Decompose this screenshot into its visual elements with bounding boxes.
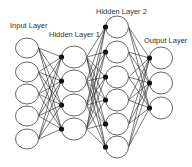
label-hidden-layer-2: Hidden Layer 2 [96, 7, 147, 16]
input-neuron [16, 106, 39, 126]
layer-labels: Input Layer Hidden Layer 1 Hidden Layer … [10, 7, 188, 45]
hidden2-neuron [106, 136, 129, 158]
output-neuron [150, 97, 173, 119]
network-svg: Input Layer Hidden Layer 1 Hidden Layer … [0, 0, 192, 167]
output-neuron [150, 47, 173, 69]
junction-dot-icon [147, 80, 152, 85]
connection-edge [129, 108, 150, 124]
junction-dot-icon [103, 24, 108, 29]
connection-edge [129, 58, 150, 147]
label-input-layer: Input Layer [10, 21, 48, 30]
output-neuron [150, 72, 173, 94]
hidden2-neuron [106, 66, 129, 88]
hidden1-neuron [62, 46, 87, 68]
junction-dot-icon [103, 144, 108, 149]
hidden2-neuron [106, 113, 129, 135]
hidden2-neuron [106, 16, 129, 38]
hidden2-neuron [106, 89, 129, 111]
input-neuron [16, 84, 39, 104]
junction-dot-icon [59, 78, 64, 83]
hidden1-neuron [62, 70, 87, 92]
junction-dot-icon [147, 55, 152, 60]
junction-dot-icon [103, 49, 108, 54]
junction-dot-icon [103, 97, 108, 102]
connection-edge [39, 57, 62, 139]
label-output-layer: Output Layer [144, 36, 188, 45]
connections [39, 27, 150, 147]
label-hidden-layer-1: Hidden Layer 1 [49, 30, 100, 39]
junction-dot-icon [103, 74, 108, 79]
junction-dot-icon [59, 54, 64, 59]
connection-edge [39, 81, 62, 94]
connection-edge [129, 58, 150, 100]
input-neuron [16, 38, 39, 58]
junction-dot-icon [59, 126, 64, 131]
input-neuron [16, 129, 39, 149]
connection-edge [87, 105, 106, 147]
junction-dot-icon [59, 102, 64, 107]
input-neuron [16, 62, 39, 82]
hidden1-neuron [62, 94, 87, 116]
junction-dot-icon [103, 121, 108, 126]
hidden2-neuron [106, 41, 129, 63]
neural-network-diagram: Input Layer Hidden Layer 1 Hidden Layer … [0, 0, 192, 167]
hidden1-neuron [62, 118, 87, 140]
junction-dot-icon [147, 105, 152, 110]
